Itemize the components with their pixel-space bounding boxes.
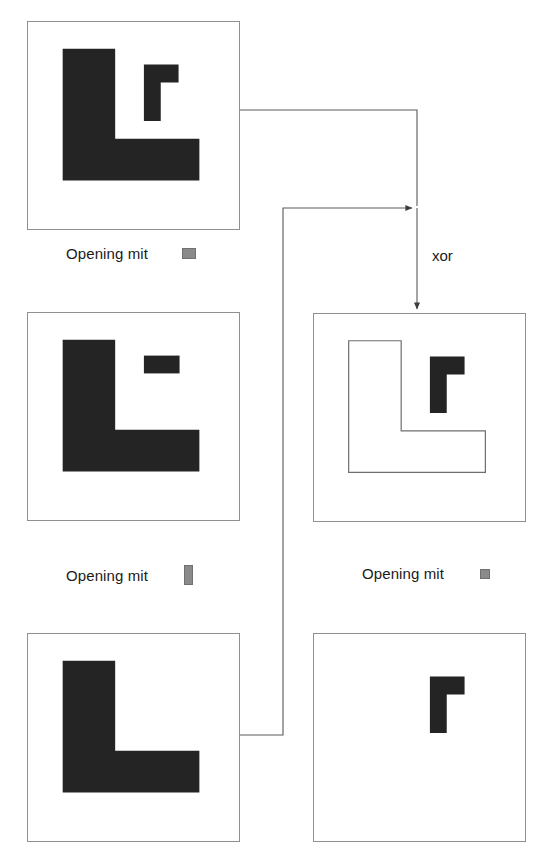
horizontal-structuring-element-icon <box>182 248 196 259</box>
large-l-shape-outline <box>349 341 486 473</box>
caption-middle-right: Opening mit <box>362 565 490 582</box>
source-image-canvas <box>28 22 239 229</box>
connector-source-to-xor <box>240 110 417 206</box>
caption-top-left-text: Opening mit <box>66 245 148 262</box>
large-l-shape <box>63 661 200 793</box>
opening-small-canvas <box>314 634 525 841</box>
panel-xor-result[interactable] <box>313 313 526 522</box>
horizontal-bar-shape <box>144 356 180 374</box>
square-structuring-element-icon <box>480 569 490 579</box>
caption-top-left: Opening mit <box>66 245 196 262</box>
small-gamma-shape <box>430 357 465 413</box>
large-l-shape <box>63 49 200 181</box>
panel-opening-vertical-result[interactable] <box>27 633 240 842</box>
caption-middle-left-text: Opening mit <box>66 567 148 584</box>
caption-middle-left: Opening mit <box>66 565 193 585</box>
xor-operator-label: xor <box>432 247 453 264</box>
panel-opening-small-result[interactable] <box>313 633 526 842</box>
vertical-structuring-element-icon <box>184 565 193 585</box>
panel-source-image[interactable] <box>27 21 240 230</box>
opening-horizontal-canvas <box>28 313 239 520</box>
xor-result-canvas <box>314 314 525 521</box>
small-gamma-shape <box>430 677 465 733</box>
opening-vertical-canvas <box>28 634 239 841</box>
panel-opening-horizontal-result[interactable] <box>27 312 240 521</box>
small-gamma-shape <box>144 65 179 121</box>
caption-middle-right-text: Opening mit <box>362 565 444 582</box>
diagram-root: Opening mit Opening mit Opening mit <box>0 0 547 864</box>
